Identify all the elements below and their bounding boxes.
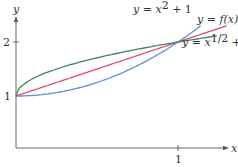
x-axis-label: x bbox=[231, 142, 238, 155]
parabola-label: y = x2 + 1 bbox=[132, 0, 192, 16]
x-tick-label-1: 1 bbox=[175, 153, 182, 166]
parabola-curve bbox=[16, 26, 201, 96]
line-label: y = f(x) bbox=[196, 13, 238, 26]
y-tick-label-2: 2 bbox=[3, 36, 10, 49]
y-axis-label: y bbox=[12, 3, 20, 16]
y-tick-label-1: 1 bbox=[4, 90, 11, 103]
function-graph: x y 1 2 1 y = x2 + 1 y = f(x) y = x1/2 +… bbox=[0, 0, 238, 167]
